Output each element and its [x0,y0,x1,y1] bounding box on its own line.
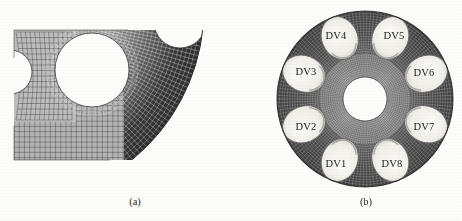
mesh-closeup-canvas [0,0,231,195]
panel-a-mesh-closeup [0,0,231,200]
figure-root: (a) DV1DV2DV3DV4DV5DV6DV7DV8 (b) [0,0,462,221]
full-disc-mesh-canvas [231,0,462,195]
caption-a: (a) [129,196,141,207]
panel-b-full-disc: DV1DV2DV3DV4DV5DV6DV7DV8 [231,0,462,200]
caption-b: (b) [360,196,372,207]
